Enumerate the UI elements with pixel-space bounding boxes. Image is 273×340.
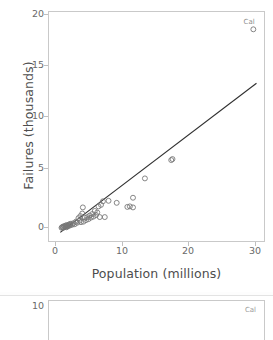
- y-tick-label-20: 20: [22, 9, 44, 19]
- scatter-chart-panel: 20 15 10 5 0 0 10 20 30 Cal Failures (t: [0, 0, 273, 292]
- next-chart-panel-clipped: 10 Cal: [0, 295, 273, 309]
- x-tick-mark-20: [188, 242, 189, 246]
- next-panel-annotation: Cal: [245, 306, 256, 314]
- regression-line: [60, 83, 256, 232]
- next-panel-y-tick-label: 10: [22, 301, 44, 311]
- next-panel-plot-area: Cal: [48, 300, 265, 340]
- x-tick-mark-10: [122, 242, 123, 246]
- y-tick-label-0: 0: [22, 222, 44, 232]
- x-axis-title: Population (millions): [48, 266, 265, 281]
- annotation-california: Cal: [244, 19, 255, 26]
- plot-area: Cal: [48, 11, 265, 242]
- scatter-plot-svg: [49, 12, 264, 241]
- data-point-markers: [59, 27, 256, 230]
- x-tick-label-10: 10: [107, 246, 137, 256]
- x-tick-mark-0: [55, 242, 56, 246]
- x-tick-label-20: 20: [173, 246, 203, 256]
- x-tick-mark-30: [255, 242, 256, 246]
- x-tick-label-30: 30: [240, 246, 270, 256]
- y-axis-title: Failures (thousands): [21, 36, 36, 216]
- x-tick-label-0: 0: [40, 246, 70, 256]
